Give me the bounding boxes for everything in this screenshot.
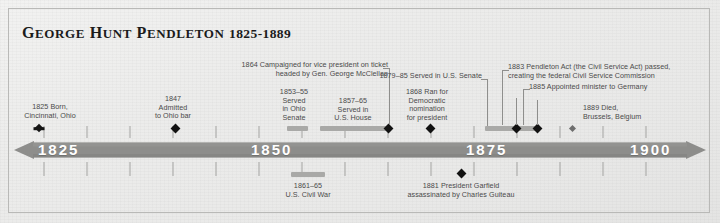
axis-label-1850: 1850 [251,141,292,158]
axis-label-1825: 1825 [38,141,79,158]
span-1861-1865-civil-war [291,172,325,177]
note-1847-ohio-bar: 1847 Admitted to Ohio bar [140,95,206,121]
leader-1883 [502,70,503,125]
title-name: GEORGE HUNT PENDLETON [22,24,224,41]
title-life-span: 1825-1889 [229,26,291,41]
axis-label-1875: 1875 [466,141,507,158]
note-1885-minister-germany: 1885 Appointed minister to Germany [529,83,719,92]
note-1868-dem-nomination: 1868 Ran for Democratic nomination for p… [396,88,458,122]
leader-1885 [523,89,524,125]
timeline-figure: GEORGE HUNT PENDLETON 1825-1889 [0,0,720,223]
note-1881-garfield: 1881 President Garfield assassinated by … [391,182,531,199]
axis-ticks [0,126,720,178]
note-1853-ohio-senate: 1853–55 Served in Ohio Senate [268,88,320,122]
axis-label-1900: 1900 [630,141,671,158]
note-1889-died: 1889 Died, Brussels, Belgium [583,104,713,121]
leader-1883-stem [516,98,517,125]
page-title: GEORGE HUNT PENDLETON 1825-1889 [22,24,291,42]
note-1864-vp-campaign: 1864 Campaigned for vice president on ti… [190,61,388,78]
note-1861-civil-war: 1861–65 U.S. Civil War [266,182,350,199]
note-1879-us-senate: 1879–85 Served in U.S. Senate [370,72,482,81]
note-1825-born: 1825 Born, Cincinnati, Ohio [8,103,92,120]
note-1883-pendleton-act: 1883 Pendleton Act (the Civil Service Ac… [508,63,718,80]
leader-1879-elbow [481,79,488,80]
leader-1885-stem [537,100,538,125]
note-1857-us-house: 1857–65 Served in U.S. House [322,97,384,123]
span-1857-1865-us-house [320,126,387,131]
leader-1879 [487,79,488,126]
span-1853-1855-ohio-senate [287,126,308,131]
